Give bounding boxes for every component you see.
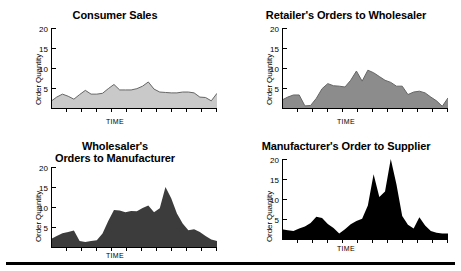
x-axis-label-wholesaler-orders: TIME bbox=[0, 252, 230, 259]
panel-title-wholesaler-orders-line1: Wholesaler's bbox=[0, 140, 230, 153]
y-axis-label-wholesaler-orders: Order Quantity bbox=[34, 191, 43, 242]
chart-svg-retailer-orders bbox=[282, 28, 448, 112]
y-tick-20-wholesaler-orders: 20 bbox=[34, 164, 48, 173]
y-tick-10-wholesaler-orders: 10 bbox=[34, 204, 48, 213]
plot-area-wholesaler-orders bbox=[51, 167, 217, 251]
plot-area-manufacturer-orders bbox=[282, 159, 448, 243]
y-tick-20-manufacturer-orders: 20 bbox=[265, 156, 279, 165]
x-axis-label-retailer-orders: TIME bbox=[231, 118, 461, 125]
y-tick-15-retailer-orders: 15 bbox=[265, 45, 279, 54]
panel-consumer-sales: Consumer Sales Order Quantity 20 15 10 5 bbox=[0, 0, 230, 132]
y-tick-10-manufacturer-orders: 10 bbox=[265, 196, 279, 205]
y-tick-20-consumer-sales: 20 bbox=[34, 25, 48, 34]
panel-retailer-orders: Retailer's Orders to Wholesaler Order Qu… bbox=[231, 0, 461, 132]
bottom-divider-rule bbox=[6, 262, 455, 265]
chart-svg-wholesaler-orders bbox=[51, 167, 217, 251]
y-tick-10-consumer-sales: 10 bbox=[34, 65, 48, 74]
y-tick-5-wholesaler-orders: 5 bbox=[34, 224, 48, 233]
x-axis-label-consumer-sales: TIME bbox=[0, 118, 230, 125]
beer-game-figure: Consumer Sales Order Quantity 20 15 10 5 bbox=[0, 0, 461, 271]
chart-svg-manufacturer-orders bbox=[282, 159, 448, 243]
area-series-consumer-sales bbox=[51, 82, 217, 108]
panel-title-wholesaler-orders-line2: Orders to Manufacturer bbox=[0, 152, 230, 165]
y-tick-5-consumer-sales: 5 bbox=[34, 85, 48, 94]
chart-svg-consumer-sales bbox=[51, 28, 217, 112]
plot-area-retailer-orders bbox=[282, 28, 448, 112]
plot-area-consumer-sales bbox=[51, 28, 217, 112]
x-axis-label-manufacturer-orders: TIME bbox=[231, 245, 461, 252]
y-tick-15-consumer-sales: 15 bbox=[34, 45, 48, 54]
panel-title-consumer-sales: Consumer Sales bbox=[0, 9, 230, 22]
area-series-manufacturer-orders bbox=[282, 159, 448, 239]
y-tick-20-retailer-orders: 20 bbox=[265, 25, 279, 34]
panel-wholesaler-orders: Wholesaler's Orders to Manufacturer Orde… bbox=[0, 132, 230, 257]
y-axis-label-retailer-orders: Order Quantity bbox=[265, 54, 274, 105]
y-tick-15-manufacturer-orders: 15 bbox=[265, 176, 279, 185]
y-tick-15-wholesaler-orders: 15 bbox=[34, 184, 48, 193]
y-tick-5-retailer-orders: 5 bbox=[265, 85, 279, 94]
panel-manufacturer-orders: Manufacturer's Order to Supplier Order Q… bbox=[231, 132, 461, 257]
y-tick-10-retailer-orders: 10 bbox=[265, 65, 279, 74]
y-axis-label-consumer-sales: Order Quantity bbox=[34, 54, 43, 105]
panel-title-retailer-orders: Retailer's Orders to Wholesaler bbox=[231, 9, 461, 22]
y-tick-5-manufacturer-orders: 5 bbox=[265, 216, 279, 225]
panel-title-manufacturer-orders: Manufacturer's Order to Supplier bbox=[231, 140, 461, 153]
area-series-wholesaler-orders bbox=[51, 187, 217, 247]
